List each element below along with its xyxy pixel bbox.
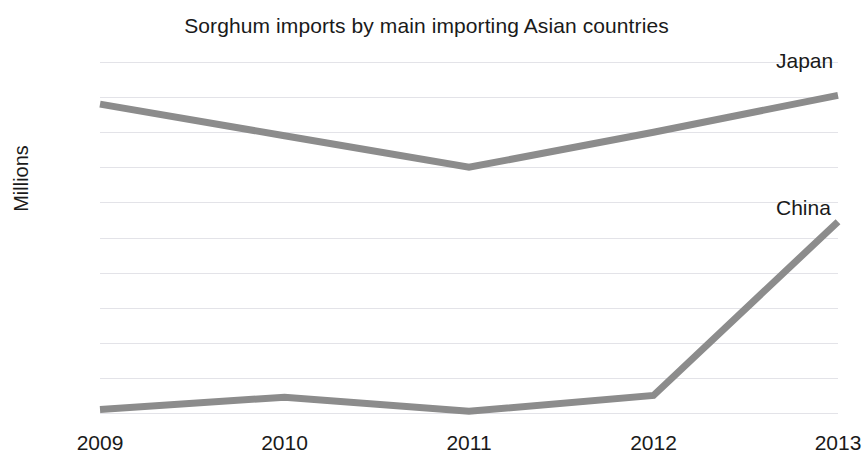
x-axis-tick-label: 2009 xyxy=(45,431,155,455)
series-label-japan: Japan xyxy=(776,49,833,73)
plot-area: 21.81.61.41.210.80.60.40.20 200920102011… xyxy=(100,62,838,413)
x-axis-tick-label: 2013 xyxy=(783,431,866,455)
x-axis-tick-label: 2011 xyxy=(414,431,524,455)
x-axis-tick-label: 2010 xyxy=(230,431,340,455)
series-lines xyxy=(100,62,838,413)
series-line-china xyxy=(100,222,838,412)
series-label-china: China xyxy=(776,196,831,220)
series-line-japan xyxy=(100,95,838,167)
x-axis-tick-label: 2012 xyxy=(599,431,709,455)
chart-title: Sorghum imports by main importing Asian … xyxy=(0,14,853,38)
y-axis-title: Millions xyxy=(10,119,33,239)
